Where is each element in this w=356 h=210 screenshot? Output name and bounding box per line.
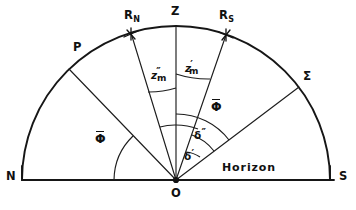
label-sigma: Σ bbox=[303, 70, 311, 82]
phi-right-overbar bbox=[212, 99, 221, 101]
origin-dot-icon bbox=[173, 177, 179, 183]
label-zenith: Z bbox=[171, 6, 180, 18]
label-star-north-letter: R bbox=[124, 8, 133, 22]
arc-zm-double-outer bbox=[148, 88, 176, 92]
phi-left-overbar bbox=[96, 131, 105, 133]
label-horizon: Horizon bbox=[222, 162, 276, 173]
zm-single-sub: m bbox=[189, 66, 199, 76]
horizon-diagram-figure: N S O Z P Σ Horizon RN RS z″m z′m δ″ δ′ … bbox=[0, 0, 356, 210]
label-pole: P bbox=[73, 42, 82, 54]
ray-to-pole bbox=[69, 69, 176, 180]
label-phi-left: Φ bbox=[95, 133, 106, 146]
label-zenith-distance-south: z′m bbox=[185, 63, 203, 74]
label-phi-right: Φ bbox=[211, 101, 222, 114]
ray-to-star-north bbox=[131, 33, 176, 180]
star-marker-south-icon bbox=[219, 29, 233, 41]
diagram-canvas bbox=[0, 0, 356, 210]
label-delta-double: δ″ bbox=[194, 130, 205, 141]
label-origin: O bbox=[171, 188, 181, 200]
phi-left-letter: Φ bbox=[95, 131, 106, 146]
label-star-north-sub: N bbox=[133, 15, 140, 24]
label-south: S bbox=[339, 171, 347, 183]
arc-zm-double-inner bbox=[160, 125, 176, 127]
label-zenith-distance-north: z″m bbox=[151, 70, 171, 81]
label-delta-single: δ′ bbox=[184, 151, 194, 162]
label-star-south-sub: S bbox=[228, 15, 234, 24]
delta-double-prime: ″ bbox=[201, 127, 205, 138]
phi-right-glyph: Φ bbox=[211, 101, 222, 114]
phi-left-glyph: Φ bbox=[95, 133, 106, 146]
zm-double-sub: m bbox=[157, 73, 167, 83]
label-north: N bbox=[6, 171, 16, 183]
phi-right-letter: Φ bbox=[211, 99, 222, 114]
delta-single-prime: ′ bbox=[191, 148, 193, 159]
label-star-north: RN bbox=[124, 10, 140, 22]
label-star-south-letter: R bbox=[219, 8, 228, 22]
arc-phi-left bbox=[114, 136, 133, 180]
label-star-south: RS bbox=[219, 10, 234, 22]
